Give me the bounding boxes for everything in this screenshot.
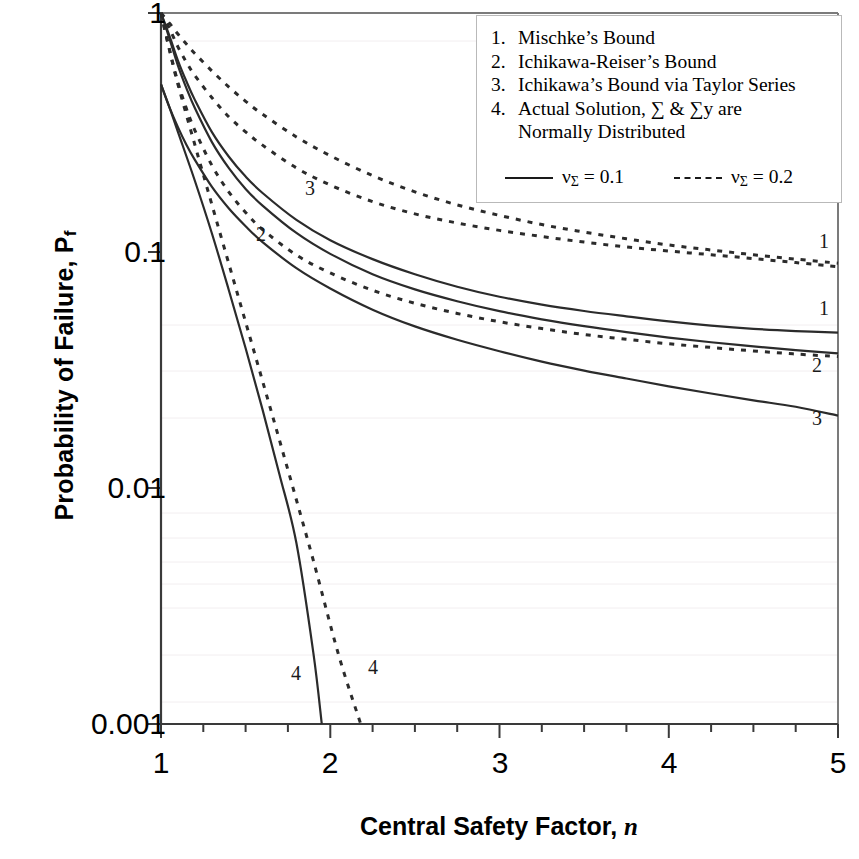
legend-key-solid-symbol: ν	[562, 166, 571, 187]
legend-item-3-label: Ichikawa’s Bound via Taylor Series	[518, 73, 841, 97]
x-tick-label-1: 1	[131, 748, 191, 778]
legend-key-dashed: νΣ = 0.2	[674, 166, 793, 190]
x-ticks	[161, 724, 838, 738]
legend-item-4-label: Actual Solution, ∑ & ∑y are	[518, 97, 841, 121]
x-tick-label-5: 5	[808, 748, 859, 778]
x-tick-label-4: 4	[639, 748, 699, 778]
legend-item-4-number: 4.	[491, 97, 506, 121]
y-axis-title: Probability of Failure, Pf	[50, 211, 81, 541]
legend-key-solid: νΣ = 0.1	[505, 166, 624, 190]
y-ticks	[148, 13, 161, 724]
y-tick-label-1: 1	[36, 0, 166, 28]
curve-label-4-dashed: 4	[368, 657, 378, 677]
x-tick-label-3: 3	[470, 748, 530, 778]
solid-line-swatch-icon	[505, 177, 553, 179]
curve-label-3-inline: 3	[305, 178, 315, 198]
y-axis-title-subscript: f	[61, 230, 80, 236]
curve-4-solid	[161, 84, 322, 724]
y-axis-title-text: Probability of Failure, P	[50, 236, 78, 520]
chart-root: 1 0.1 0.01 0.001 1 2 3 4 5 Probability o…	[0, 0, 859, 859]
y-tick-label-0.001: 0.001	[36, 709, 166, 739]
legend-key-solid-subscript: Σ	[571, 174, 579, 189]
curve-label-1-solid-right: 1	[819, 298, 829, 318]
legend-box: 1. Mischke’s Bound 2. Ichikawa-Reiser’s …	[476, 15, 842, 203]
legend-item-2-label: Ichikawa-Reiser’s Bound	[518, 50, 841, 74]
legend-item-2: 2. Ichikawa-Reiser’s Bound	[491, 50, 841, 74]
legend-key-dashed-symbol: ν	[731, 166, 740, 187]
legend-item-3-number: 3.	[491, 73, 506, 97]
curve-label-3-right: 3	[812, 408, 822, 428]
x-axis-title-variable: n	[624, 813, 638, 840]
legend-list: 1. Mischke’s Bound 2. Ichikawa-Reiser’s …	[477, 16, 841, 144]
legend-item-1: 1. Mischke’s Bound	[491, 26, 841, 50]
legend-key-dashed-value: = 0.2	[748, 166, 793, 187]
legend-item-3: 3. Ichikawa’s Bound via Taylor Series	[491, 73, 841, 97]
legend-item-2-number: 2.	[491, 50, 506, 74]
dashed-line-swatch-icon	[674, 177, 722, 179]
legend-item-1-label: Mischke’s Bound	[518, 26, 841, 50]
legend-item-4: 4. Actual Solution, ∑ & ∑y are Normally …	[491, 97, 841, 144]
legend-key-solid-value: = 0.1	[579, 166, 624, 187]
curve-label-2-inline: 2	[256, 224, 266, 244]
curve-label-4-solid: 4	[291, 663, 301, 683]
legend-item-4-label-continued: Normally Distributed	[518, 120, 841, 144]
x-axis-title-text: Central Safety Factor,	[360, 812, 624, 840]
x-tick-label-2: 2	[300, 748, 360, 778]
curve-label-1-dashed-right: 1	[819, 231, 829, 251]
x-axis-title: Central Safety Factor, n	[160, 812, 838, 841]
curve-label-2-right: 2	[812, 355, 822, 375]
legend-item-1-number: 1.	[491, 26, 506, 50]
legend-key-dashed-subscript: Σ	[740, 174, 748, 189]
